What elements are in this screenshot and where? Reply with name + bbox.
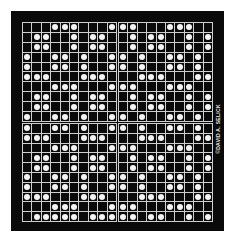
grid-cell (51, 202, 60, 212)
grid-cell (61, 153, 70, 163)
grid-cell (157, 72, 166, 82)
grid-cell (185, 202, 194, 212)
dot-icon (81, 184, 87, 190)
grid-cell (98, 144, 107, 154)
grid-cell (147, 72, 156, 82)
dot-icon (186, 155, 192, 161)
grid-cell (138, 43, 147, 53)
grid-cell (204, 153, 213, 163)
grid-cell (175, 102, 184, 112)
grid-cell (23, 102, 32, 112)
dot-icon (130, 84, 136, 90)
grid-cell (98, 163, 107, 173)
dot-icon (52, 54, 58, 60)
dot-icon (167, 125, 173, 131)
grid-cell (61, 173, 70, 183)
grid-cell (185, 153, 194, 163)
dot-icon (195, 114, 201, 120)
dot-icon (24, 125, 30, 131)
grid-cell (147, 202, 156, 212)
dot-icon (99, 74, 105, 80)
grid-cell (157, 102, 166, 112)
dot-icon (186, 84, 192, 90)
dot-icon (139, 54, 145, 60)
grid-cell (89, 193, 98, 203)
dot-icon (177, 114, 183, 120)
grid-cell (128, 43, 137, 53)
grid-cell (61, 23, 70, 33)
grid-cell (138, 163, 147, 173)
grid-cell (166, 153, 175, 163)
grid-cell (70, 202, 79, 212)
grid-cell (119, 173, 128, 183)
dot-icon (186, 165, 192, 171)
grid-cell (51, 92, 60, 102)
grid-cell (42, 33, 51, 43)
grid-cell (128, 102, 137, 112)
dot-icon (195, 194, 201, 200)
dot-icon (120, 204, 126, 210)
dot-icon (34, 165, 40, 171)
grid-cell (42, 53, 51, 63)
grid-cell (98, 92, 107, 102)
dot-icon (195, 184, 201, 190)
grid-cell (194, 53, 203, 63)
dot-icon (90, 44, 96, 50)
dot-icon (81, 64, 87, 70)
dot-icon (90, 155, 96, 161)
grid-cell (119, 163, 128, 173)
grid-cell (23, 153, 32, 163)
grid-cell (61, 134, 70, 144)
grid-cell (194, 92, 203, 102)
grid-cell (98, 193, 107, 203)
grid-cell (119, 82, 128, 92)
grid-cell (194, 23, 203, 33)
grid-cell (70, 23, 79, 33)
dot-icon (90, 74, 96, 80)
dot-icon (62, 24, 68, 30)
grid-cell (42, 153, 51, 163)
grid-cell (32, 212, 41, 222)
grid-cell (185, 134, 194, 144)
grid-cell (23, 183, 32, 193)
quadrant-top-left (22, 22, 117, 122)
dot-icon (120, 24, 126, 30)
dot-icon (90, 34, 96, 40)
grid-cell (204, 23, 213, 33)
grid-cell (119, 23, 128, 33)
dot-icon (52, 24, 58, 30)
grid-cell (32, 23, 41, 33)
grid-cell (194, 33, 203, 43)
grid-cell (204, 82, 213, 92)
grid-cell (70, 72, 79, 82)
dot-icon (120, 174, 126, 180)
grid-cell (128, 183, 137, 193)
quadrant-top-right (118, 22, 213, 122)
dot-icon (62, 54, 68, 60)
grid-cell (166, 72, 175, 82)
grid-cell (42, 173, 51, 183)
dot-icon (148, 44, 154, 50)
grid-cell (98, 212, 107, 222)
grid-cell (119, 43, 128, 53)
grid-cell (128, 124, 137, 134)
dot-icon (186, 24, 192, 30)
grid-cell (204, 112, 213, 122)
dot-icon (109, 114, 115, 120)
grid-cell (79, 193, 88, 203)
grid-cell (138, 202, 147, 212)
grid-cell (147, 53, 156, 63)
dot-icon (177, 125, 183, 131)
dot-icon (109, 84, 115, 90)
grid-cell (185, 23, 194, 33)
grid-cell (108, 63, 117, 73)
grid-cell (185, 183, 194, 193)
dot-icon (81, 125, 87, 131)
dot-icon (158, 44, 164, 50)
dot-icon (167, 184, 173, 190)
dot-icon (90, 214, 96, 220)
grid-cell (128, 112, 137, 122)
dot-icon (195, 54, 201, 60)
grid-cell (175, 212, 184, 222)
grid-cell (42, 82, 51, 92)
